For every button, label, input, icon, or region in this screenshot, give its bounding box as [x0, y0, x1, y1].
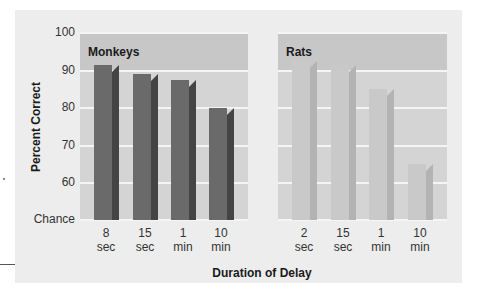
monkeys-bar-4 — [209, 108, 227, 220]
bar-side — [349, 72, 356, 220]
bar-front — [94, 65, 112, 220]
bar-cap — [310, 61, 317, 68]
bar-front — [171, 80, 189, 220]
x-axis-label: Duration of Delay — [212, 266, 311, 280]
edge-mark — [3, 178, 5, 180]
y-axis-label: Percent Correct — [29, 82, 43, 172]
bar-side — [426, 171, 433, 220]
rats-panel-title: Rats — [286, 45, 312, 59]
rats-x-tick-3: 1min — [361, 226, 401, 254]
bar-side — [112, 72, 119, 220]
rats-x-tick-1: 2sec — [284, 226, 324, 254]
bar-cap — [426, 164, 433, 171]
rats-x-tick-2: 15sec — [323, 226, 363, 254]
bar-side — [387, 96, 394, 220]
bar-front — [408, 164, 426, 220]
gridline — [278, 32, 447, 34]
monkeys-bar-2 — [133, 74, 151, 220]
y-tick-60: 60 — [62, 175, 75, 189]
y-tick-70: 70 — [62, 138, 75, 152]
monkeys-plot: Monkeys — [80, 33, 248, 220]
bar-front — [369, 89, 387, 220]
monkeys-bar-1 — [94, 65, 112, 220]
bar-cap — [189, 80, 196, 87]
gridline — [80, 32, 248, 34]
monkeys-x-tick-4: 10min — [201, 226, 241, 254]
bar-front — [331, 65, 349, 220]
rats-x-tick-4: 10min — [400, 226, 440, 254]
bar-side — [189, 87, 196, 220]
bar-front — [292, 61, 310, 220]
rats-plot: Rats — [278, 33, 447, 220]
rats-bar-2 — [331, 65, 349, 220]
y-tick-80: 80 — [62, 100, 75, 114]
rats-bar-3 — [369, 89, 387, 220]
monkeys-x-tick-1: 8sec — [86, 226, 126, 254]
bar-side — [310, 68, 317, 220]
bar-front — [133, 74, 151, 220]
edge-rule — [0, 264, 15, 265]
monkeys-x-tick-3: 1min — [163, 226, 203, 254]
y-tick-90: 90 — [62, 63, 75, 77]
bar-front — [209, 108, 227, 220]
bar-cap — [112, 65, 119, 72]
bar-cap — [227, 108, 234, 115]
bar-side — [151, 81, 158, 220]
y-tick-chance: Chance — [34, 212, 75, 226]
bar-cap — [151, 74, 158, 81]
monkeys-bar-3 — [171, 80, 189, 220]
monkeys-panel-title: Monkeys — [88, 45, 139, 59]
monkeys-x-tick-2: 15sec — [125, 226, 165, 254]
rats-bar-4 — [408, 164, 426, 220]
bar-side — [227, 115, 234, 220]
bar-cap — [387, 89, 394, 96]
rats-bar-1 — [292, 61, 310, 220]
y-tick-100: 100 — [55, 25, 75, 39]
bar-cap — [349, 65, 356, 72]
